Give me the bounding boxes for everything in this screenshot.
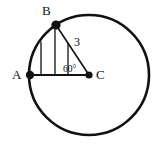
point-B-dot	[51, 20, 60, 29]
point-B-label: B	[42, 3, 51, 18]
figure-canvas: A B C 3 60°	[0, 0, 159, 147]
geometry-figure: A B C 3 60°	[0, 0, 159, 147]
angle-measure-label: 60°	[63, 64, 77, 74]
radius-length-label: 3	[74, 35, 80, 49]
point-C-label: C	[96, 67, 105, 82]
point-A-label: A	[12, 67, 22, 82]
point-A-dot	[26, 71, 34, 79]
point-C-dot	[85, 71, 92, 78]
